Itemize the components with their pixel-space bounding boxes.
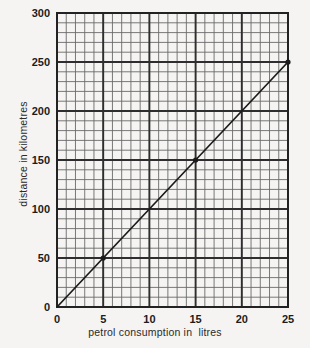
x-axis-label: petrol consumption in litres bbox=[0, 326, 310, 338]
y-tick-label: 50 bbox=[38, 252, 50, 264]
x-axis-tick-labels: 0510152025 bbox=[54, 313, 294, 325]
y-axis-tick-labels: 050100150200250300 bbox=[32, 7, 50, 313]
data-point-marker bbox=[101, 255, 106, 260]
chart-canvas: 0510152025 050100150200250300 bbox=[0, 0, 310, 348]
x-tick-label: 25 bbox=[282, 313, 294, 325]
y-tick-label: 150 bbox=[32, 154, 50, 166]
x-tick-label: 10 bbox=[143, 313, 155, 325]
y-tick-label: 300 bbox=[32, 7, 50, 19]
y-tick-label: 200 bbox=[32, 105, 50, 117]
x-tick-label: 20 bbox=[236, 313, 248, 325]
y-tick-label: 250 bbox=[32, 56, 50, 68]
x-tick-label: 5 bbox=[100, 313, 106, 325]
x-tick-label: 0 bbox=[54, 313, 60, 325]
y-tick-label: 0 bbox=[44, 301, 50, 313]
data-point-marker bbox=[193, 157, 198, 162]
data-point-marker bbox=[285, 59, 290, 64]
major-gridlines bbox=[57, 13, 288, 307]
y-tick-label: 100 bbox=[32, 203, 50, 215]
series-line bbox=[57, 62, 288, 307]
line-chart-figure: 0510152025 050100150200250300 petrol con… bbox=[0, 0, 310, 348]
x-tick-label: 15 bbox=[189, 313, 201, 325]
y-axis-label: distance in kilometres bbox=[17, 79, 29, 229]
data-series-line bbox=[57, 62, 288, 307]
